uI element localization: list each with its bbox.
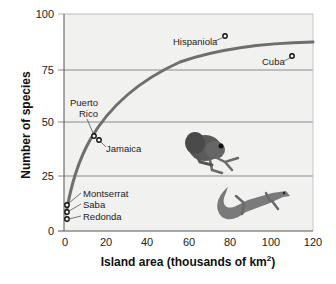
y-tick-0: 0 (48, 225, 54, 237)
y-tick-100: 100 (36, 8, 54, 20)
point-hispaniola (223, 34, 227, 38)
x-tick-20: 20 (100, 236, 112, 248)
species-area-chart: 100 75 50 25 0 0 20 40 60 80 100 120 Num… (0, 0, 336, 284)
label-jamaica: Jamaica (106, 143, 142, 154)
label-redonda: Redonda (83, 211, 122, 222)
point-redonda (65, 217, 69, 221)
x-tick-120: 120 (304, 236, 322, 248)
x-tick-40: 40 (141, 236, 153, 248)
x-axis-title-close: ) (271, 255, 275, 269)
point-cuba (290, 54, 294, 58)
y-tick-25: 25 (42, 170, 54, 182)
x-tick-100: 100 (262, 236, 280, 248)
label-montserrat: Montserrat (83, 188, 129, 199)
x-axis-title: Island area (thousands of km2) (101, 254, 276, 269)
y-tick-50: 50 (42, 116, 54, 128)
x-tick-0: 0 (62, 236, 68, 248)
label-saba: Saba (83, 199, 106, 210)
y-axis-title: Number of species (19, 71, 33, 179)
point-saba (65, 210, 69, 214)
point-jamaica (97, 138, 101, 142)
label-puerto-rico-line1: Puerto (70, 97, 98, 108)
label-puerto-rico-line2: Rico (79, 108, 98, 119)
label-hispaniola: Hispaniola (173, 36, 218, 47)
x-axis-title-main: Island area (thousands of km (101, 255, 267, 269)
point-montserrat (65, 203, 69, 207)
point-puerto-rico (92, 134, 96, 138)
label-cuba: Cuba (262, 56, 285, 67)
x-tick-60: 60 (183, 236, 195, 248)
x-tick-80: 80 (224, 236, 236, 248)
y-tick-75: 75 (42, 64, 54, 76)
